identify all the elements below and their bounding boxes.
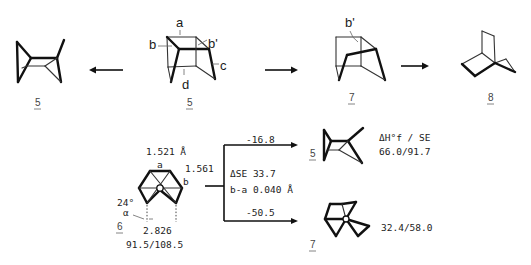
arrow-6-to-7	[265, 67, 298, 74]
reaction-scheme: 5 a b b' c d 5 6	[0, 0, 531, 265]
bond-label-a: a	[176, 15, 184, 30]
alpha-symbol: α	[123, 207, 129, 218]
compound-5-label: 5	[35, 97, 41, 108]
bond-label-c: c	[220, 58, 227, 73]
compound-7-bottom-label: 7	[310, 239, 316, 250]
arrow-7-to-8	[401, 63, 429, 70]
b-minus-a: b-a 0.040 Å	[230, 184, 293, 195]
compound-7-structure	[336, 37, 385, 80]
bond-label-b: b	[149, 37, 156, 52]
compound-7-bottom-structure	[325, 202, 369, 236]
compound-7-hf-se: 32.4/58.0	[381, 222, 433, 233]
hf-se-header: ΔH°f / SE	[379, 132, 431, 143]
distance-2826: 2.826	[143, 225, 172, 236]
compound-5-bottom-label: 5	[310, 148, 316, 159]
label-a: a	[157, 159, 163, 170]
bond-label-b-prime-7: b'	[345, 15, 355, 30]
arrow-6-to-5	[89, 67, 123, 74]
compound-5-hf-se: 66.0/91.7	[379, 146, 430, 157]
compound-6-hf-se: 91.5/108.5	[126, 239, 183, 250]
energy-to-7: -50.5	[246, 207, 275, 218]
bond-b-length: 1.561	[185, 163, 214, 174]
compound-7-label: 7	[349, 92, 355, 103]
compound-6-bottom-label: 6	[117, 221, 123, 232]
energy-to-5: -16.8	[246, 134, 275, 145]
compound-5-structure	[17, 40, 64, 82]
bond-a-length: 1.521 Å	[146, 146, 186, 157]
delta-se: ΔSE 33.7	[230, 168, 276, 179]
compound-6-topview-structure	[139, 171, 182, 222]
label-b: b	[183, 176, 189, 187]
bond-label-b-prime: b'	[208, 36, 218, 51]
bond-label-d: d	[182, 77, 189, 92]
compound-5-bottom-structure	[324, 128, 363, 163]
compound-8-label: 8	[488, 92, 494, 103]
compound-8-structure	[462, 31, 515, 76]
